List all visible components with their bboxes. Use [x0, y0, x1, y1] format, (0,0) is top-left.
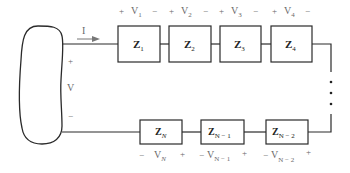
source-plus: +: [68, 56, 73, 66]
svg-text:−: −: [263, 150, 268, 160]
source-voltage-label: V: [67, 82, 75, 93]
svg-text:−: −: [199, 150, 204, 160]
continuation-dot: [330, 92, 333, 95]
svg-text:+: +: [169, 6, 174, 16]
svg-text:VN: VN: [154, 149, 166, 163]
impedance-zn: ZN: [140, 120, 182, 144]
svg-text:−: −: [203, 6, 208, 16]
svg-text:V2: V2: [181, 5, 192, 19]
impedance-zn-minus-2: ZN − 2: [266, 120, 308, 144]
svg-text:+: +: [272, 6, 277, 16]
svg-text:V1: V1: [131, 5, 142, 19]
svg-text:+: +: [119, 6, 124, 16]
voltage-label-v1: + V1 −: [119, 5, 157, 19]
impedance-z2: Z2: [169, 26, 211, 62]
svg-text:V3: V3: [231, 5, 242, 19]
impedance-z4: Z4: [271, 26, 312, 62]
impedance-z1: Z1: [118, 26, 160, 62]
voltage-source-shape: [19, 26, 63, 144]
svg-text:−: −: [139, 150, 144, 160]
voltage-label-vn: − VN +: [139, 149, 185, 163]
wire-right-top: [312, 44, 331, 72]
current-label: I: [82, 25, 85, 36]
svg-text:+: +: [306, 147, 311, 157]
source-minus: −: [68, 111, 73, 121]
wire-right-bottom: [308, 114, 331, 132]
svg-text:VN − 1: VN − 1: [207, 149, 231, 163]
continuation-dot: [330, 81, 333, 84]
voltage-label-vn-minus-2: − VN − 2 +: [263, 147, 311, 164]
voltage-label-v4: + V4 −: [272, 5, 310, 19]
svg-text:VN − 2: VN − 2: [271, 149, 295, 164]
svg-text:−: −: [152, 6, 157, 16]
current-arrow-icon: [92, 36, 100, 42]
impedance-zn-minus-1: ZN − 1: [201, 120, 244, 144]
svg-text:+: +: [180, 149, 185, 159]
svg-text:V4: V4: [284, 5, 295, 19]
impedance-z3: Z3: [220, 26, 261, 62]
svg-text:−: −: [305, 6, 310, 16]
svg-text:−: −: [253, 6, 258, 16]
voltage-label-vn-minus-1: − VN − 1 +: [199, 148, 247, 163]
voltage-label-v2: + V2 −: [169, 5, 208, 19]
continuation-dot: [330, 103, 333, 106]
voltage-label-v3: + V3 −: [219, 5, 258, 19]
svg-text:+: +: [242, 148, 247, 158]
svg-text:+: +: [219, 6, 224, 16]
circuit-diagram: I + V − Z1 Z2 Z3 Z4 + V1 − + V2 − + V3 −: [0, 0, 350, 173]
